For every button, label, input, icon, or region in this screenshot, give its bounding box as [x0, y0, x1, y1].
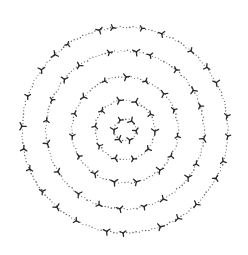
tick-mark-icon: [111, 155, 117, 162]
tick-mark-icon: [38, 68, 45, 74]
tick-mark-icon: [148, 111, 154, 117]
tick-mark-icon: [147, 53, 152, 58]
tick-mark-icon: [128, 117, 135, 124]
tick-mark-icon: [75, 192, 82, 198]
tick-mark-icon: [174, 67, 179, 73]
tick-mark-icon: [168, 153, 174, 158]
tick-mark-icon: [110, 128, 117, 134]
tick-mark-icon: [127, 138, 133, 144]
tick-mark-icon: [160, 195, 167, 202]
tick-mark-icon: [141, 205, 147, 210]
tick-mark-icon: [158, 224, 165, 231]
tick-mark-icon: [103, 229, 110, 235]
tick-mark-icon: [124, 74, 130, 81]
tick-mark-icon: [111, 180, 118, 186]
tick-mark-icon: [175, 133, 180, 138]
tick-mark-icon: [172, 108, 177, 113]
tick-mark-icon: [213, 80, 220, 86]
tick-mark-icon: [91, 171, 98, 178]
tick-mark-icon: [193, 161, 198, 166]
tick-mark-icon: [204, 64, 210, 70]
tick-mark-icon: [96, 27, 102, 33]
tick-mark-icon: [132, 98, 138, 105]
tick-mark-icon: [133, 49, 140, 55]
ring-5: [110, 117, 138, 143]
tick-mark-icon: [54, 168, 60, 174]
tick-mark-icon: [220, 158, 226, 163]
tick-mark-icon: [53, 204, 59, 211]
tick-mark-icon: [92, 123, 98, 129]
tick-mark-icon: [50, 97, 55, 102]
tick-mark-icon: [118, 117, 123, 123]
tick-mark-icon: [156, 167, 163, 174]
tick-mark-icon: [188, 48, 194, 53]
tick-mark-icon: [145, 146, 151, 152]
tick-mark-icon: [77, 154, 82, 160]
rings-graphic: [0, 0, 248, 255]
tick-mark-icon: [161, 90, 167, 97]
ring-1: [20, 25, 231, 237]
tick-mark-icon: [39, 190, 45, 195]
tick-mark-icon: [212, 175, 217, 181]
tick-mark-icon: [96, 201, 102, 206]
tick-mark-icon: [120, 231, 126, 236]
tick-mark-icon: [111, 25, 116, 31]
tick-mark-icon: [117, 97, 123, 104]
concentric-circles-drawing: Hand-drawn concentric dotted circles wit…: [0, 0, 248, 255]
tick-mark-icon: [140, 26, 145, 31]
tick-mark-icon: [115, 136, 121, 143]
tick-mark-icon: [21, 145, 27, 151]
tick-mark-icon: [225, 114, 231, 120]
tick-mark-icon: [199, 135, 205, 142]
tick-mark-icon: [70, 134, 75, 139]
ring-2: [43, 49, 206, 212]
ring-4: [92, 97, 159, 161]
tick-mark-icon: [81, 93, 87, 99]
tick-mark-icon: [61, 77, 68, 83]
tick-mark-icon: [52, 51, 59, 57]
tick-mark-icon: [43, 140, 49, 147]
tick-mark-icon: [226, 134, 231, 139]
tick-mark-icon: [194, 201, 200, 208]
ring-3: [70, 74, 181, 186]
tick-mark-icon: [71, 111, 76, 116]
